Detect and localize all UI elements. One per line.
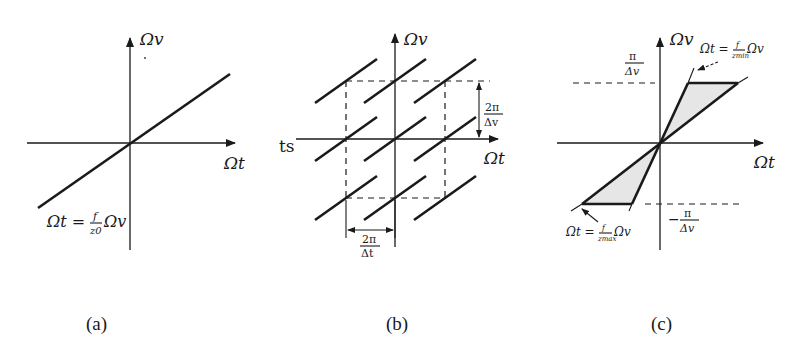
svg-text:−: − xyxy=(668,211,680,227)
eq-rhs: Ωv xyxy=(103,212,126,231)
omega-v-label: Ωv xyxy=(669,29,694,49)
svg-text:π: π xyxy=(629,50,636,63)
zmax-pointer xyxy=(582,209,598,222)
spectrum-line xyxy=(38,74,230,208)
caption-c: (c) xyxy=(651,313,672,335)
equation-a: Ωt = f z0 Ωv xyxy=(46,210,126,236)
caption-b: (b) xyxy=(386,313,408,335)
upper-bound-label: π Δv xyxy=(624,50,644,78)
svg-text:f: f xyxy=(601,223,607,232)
svg-text:2π: 2π xyxy=(362,233,376,246)
svg-text:π: π xyxy=(684,207,691,220)
zmax-ext-bottom xyxy=(571,204,582,211)
zmin-ext-top xyxy=(688,68,694,83)
svg-text:Δv: Δv xyxy=(484,116,499,129)
panel-a: Ωv Ωt Ωt = f z0 Ωv (a) xyxy=(27,29,245,335)
zmax-ext-top xyxy=(738,77,748,83)
ts-label: ts xyxy=(279,136,295,156)
svg-text:Δv: Δv xyxy=(679,222,695,235)
svg-text:Ωv: Ωv xyxy=(613,225,631,239)
period-v-label: 2π Δv xyxy=(484,101,503,129)
svg-text:f: f xyxy=(735,40,741,49)
omega-v-label: Ωv xyxy=(403,29,428,49)
zmin-pointer xyxy=(698,62,718,70)
lower-bound-label: − π Δv xyxy=(668,207,699,235)
figure-canvas: Ωv Ωt Ωt = f z0 Ωv (a) xyxy=(0,0,793,358)
svg-text:2π: 2π xyxy=(485,101,499,114)
equation-zmax: Ωt = f zmax Ωv xyxy=(565,223,631,243)
eq-frac-num: f xyxy=(92,210,99,223)
svg-text:Δv: Δv xyxy=(624,65,640,78)
equation-zmin: Ωt = f zmin Ωv xyxy=(699,40,764,60)
speck xyxy=(144,57,146,59)
omega-t-label: Ωt xyxy=(483,148,505,168)
period-t-label: 2π Δt xyxy=(360,233,380,260)
svg-text:Ωv: Ωv xyxy=(746,42,764,56)
omega-t-label: Ωt xyxy=(223,153,245,173)
svg-text:Ωt =: Ωt = xyxy=(565,225,595,239)
svg-text:Ωt =: Ωt = xyxy=(699,42,729,56)
caption-a: (a) xyxy=(86,313,107,335)
panel-b: 2π Δv 2π Δt ts Ωv Ωt (b) xyxy=(279,29,505,335)
omega-t-label: Ωt xyxy=(753,152,775,172)
svg-text:Δt: Δt xyxy=(361,247,374,260)
panel-c: Ωv Ωt π Δv − π Δv Ωt = f zmin Ωv Ωt = f … xyxy=(557,29,775,335)
eq-frac-den: z0 xyxy=(89,225,102,236)
eq-lhs: Ωt = xyxy=(46,212,85,231)
omega-v-label: Ωv xyxy=(139,29,164,49)
